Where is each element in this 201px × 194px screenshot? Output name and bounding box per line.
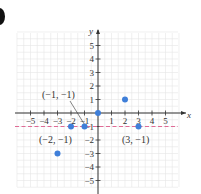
x-tick-label: 4	[150, 116, 155, 126]
x-tick-label: −4	[39, 116, 49, 126]
y-tick-label: 1	[90, 95, 95, 105]
x-tick-label: −3	[53, 116, 63, 126]
x-axis-arrow-icon	[181, 111, 186, 115]
x-tick-label: 1	[109, 116, 114, 126]
y-tick-label: 3	[90, 68, 95, 78]
y-tick-label: 2	[90, 81, 95, 91]
y-tick-label: −5	[84, 176, 94, 186]
y-axis-label: y	[88, 26, 93, 36]
annotation-label: (3, −1)	[122, 134, 149, 146]
y-tick-label: −2	[84, 135, 94, 145]
y-tick-label: −3	[84, 149, 94, 159]
x-axis-label: x	[186, 110, 191, 120]
x-tick-label: −5	[26, 116, 36, 126]
y-tick-label: 5	[90, 41, 95, 51]
x-tick-label: 2	[123, 116, 128, 126]
data-point	[122, 97, 128, 103]
x-tick-label: 5	[163, 116, 168, 126]
y-tick-label: −4	[84, 162, 94, 172]
data-point	[68, 124, 74, 130]
annotation-label: (−2, −1)	[39, 134, 72, 146]
coordinate-plane: xy−5−4−3−2−112345−5−4−3−2−112345(−1, −1)…	[0, 0, 201, 194]
y-axis-arrow-icon	[96, 29, 100, 34]
y-tick-label: 4	[90, 54, 95, 64]
data-point	[95, 110, 101, 116]
data-point	[82, 124, 88, 130]
data-point	[55, 151, 61, 157]
data-point	[136, 124, 142, 130]
annotation-label: (−1, −1)	[42, 89, 75, 101]
